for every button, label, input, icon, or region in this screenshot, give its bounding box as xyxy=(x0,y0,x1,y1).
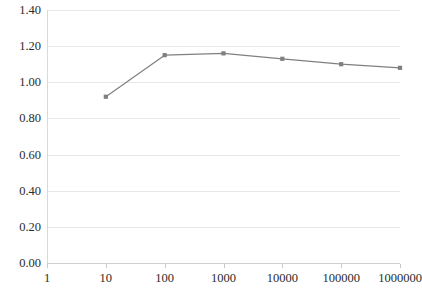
data-point-3 xyxy=(280,57,284,61)
data-point-0 xyxy=(104,95,108,99)
data-point-2 xyxy=(221,51,225,55)
data-point-4 xyxy=(339,62,343,66)
series-1-markers xyxy=(104,51,402,99)
data-point-1 xyxy=(163,53,167,57)
series-1-line xyxy=(106,53,400,96)
data-point-5 xyxy=(398,66,402,70)
